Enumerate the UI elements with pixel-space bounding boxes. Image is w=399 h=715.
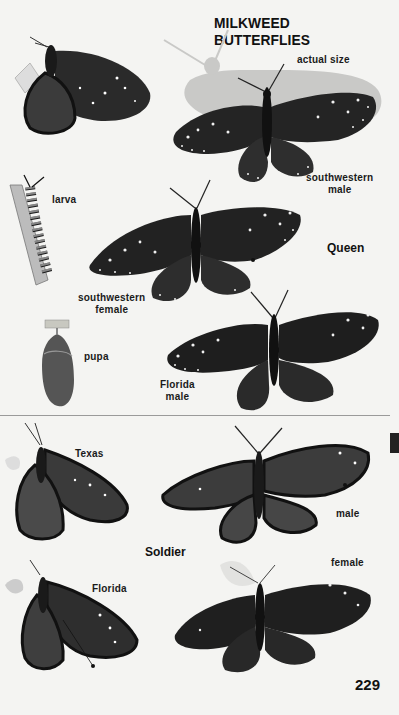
label-southwestern-female: southwestern female xyxy=(78,292,145,316)
section-thumb-tab xyxy=(390,433,399,453)
label-pupa: pupa xyxy=(84,351,109,363)
label-line: male xyxy=(160,391,195,403)
label-line: southwestern xyxy=(78,292,145,304)
soldier-female-image xyxy=(170,555,375,675)
page-number: 229 xyxy=(355,676,380,693)
label-larva: larva xyxy=(52,194,76,206)
queen-pupa-image xyxy=(38,320,78,408)
queen-larva-image xyxy=(4,175,59,290)
field-guide-page: MILKWEED BUTTERFLIES actual size xyxy=(0,0,399,715)
label-line: female xyxy=(78,304,145,316)
section-divider xyxy=(0,415,390,416)
label-line: Florida xyxy=(160,379,195,391)
species-label-queen: Queen xyxy=(327,241,364,255)
label-male: male xyxy=(336,508,360,520)
label-line: southwestern xyxy=(306,172,373,184)
soldier-texas-side-view-image xyxy=(5,420,135,545)
label-line: male xyxy=(306,184,373,196)
label-florida: Florida xyxy=(92,583,127,595)
queen-florida-male-image xyxy=(163,290,383,415)
soldier-florida-side-view-image xyxy=(5,560,140,675)
queen-southwestern-female-image xyxy=(85,180,305,305)
label-southwestern-male: southwestern male xyxy=(306,172,373,196)
label-florida-male: Florida male xyxy=(160,379,195,403)
soldier-male-image xyxy=(160,423,372,548)
queen-side-view-image xyxy=(5,33,155,138)
label-texas: Texas xyxy=(75,448,104,460)
queen-southwestern-male-image xyxy=(168,62,380,190)
